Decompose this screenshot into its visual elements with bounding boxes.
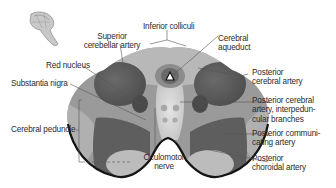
midbrain-diagram: Superior cerebellar artery Inferior coll… bbox=[0, 0, 336, 188]
label-substantia-nigra: Substantia nigra bbox=[11, 79, 68, 88]
label-posterior-choroidal-artery: Posterior choroidal artery bbox=[252, 154, 306, 173]
label-pca-interpeduncular-branches: Posterior cerebral artery, interpedun- c… bbox=[252, 96, 315, 124]
label-red-nucleus: Red nucleus bbox=[46, 61, 90, 70]
label-posterior-cerebral-artery: Posterior cerebral artery bbox=[252, 68, 303, 87]
label-posterior-communicating-artery: Posterior communi- cating artery bbox=[252, 129, 320, 148]
label-inferior-colliculi: Inferior colliculi bbox=[143, 22, 194, 31]
label-cerebral-peduncle: Cerebral peduncle bbox=[11, 125, 75, 134]
label-oculomotor-nerve: Oculomotor nerve bbox=[142, 153, 186, 172]
label-superior-cerebellar-artery: Superior cerebellar artery bbox=[82, 32, 142, 51]
label-cerebral-aqueduct: Cerebral aqueduct bbox=[218, 34, 251, 53]
brainstem-thumbnail-icon bbox=[30, 12, 58, 46]
